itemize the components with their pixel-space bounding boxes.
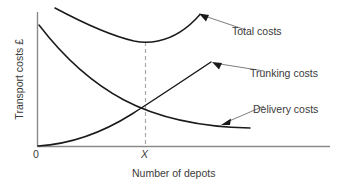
total-costs-arrow-icon bbox=[199, 14, 209, 22]
delivery-costs-arrow-icon bbox=[221, 119, 231, 126]
x-axis-tick-optimum: X bbox=[141, 149, 148, 160]
x-axis-title: Number of depots bbox=[132, 168, 215, 179]
delivery-costs-curve bbox=[39, 25, 250, 128]
y-axis-title: Transport costs £ bbox=[14, 17, 25, 141]
chart-canvas bbox=[0, 0, 349, 185]
trunking-costs-label: Trunking costs bbox=[250, 68, 318, 79]
trunking-costs-arrow-icon bbox=[212, 62, 222, 70]
x-axis-tick-origin: 0 bbox=[33, 149, 39, 160]
transport-costs-chart: Transport costs £ Number of depots 0 X T… bbox=[0, 0, 349, 185]
trunking-costs-curve bbox=[38, 62, 211, 146]
total-costs-curve bbox=[55, 8, 200, 42]
total-costs-label: Total costs bbox=[232, 26, 282, 37]
delivery-costs-label: Delivery costs bbox=[253, 104, 318, 115]
